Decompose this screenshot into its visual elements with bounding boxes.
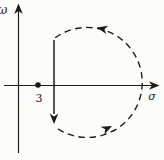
contour-bottom-arrowhead-icon [101,122,114,134]
omega-axis: ω [0,3,23,154]
pole-label: 3 [36,92,43,105]
contour [50,23,143,137]
pole-dot [35,82,41,88]
s-plane-contour-diagram: ω σ 3 [0,0,164,160]
sigma-axis: σ [4,81,160,103]
diagram-svg: ω σ 3 [0,0,164,160]
contour-dashed-arc [54,27,143,137]
omega-axis-label: ω [0,3,8,17]
sigma-axis-label: σ [148,90,156,103]
contour-downward-arrowhead-icon [50,114,59,125]
